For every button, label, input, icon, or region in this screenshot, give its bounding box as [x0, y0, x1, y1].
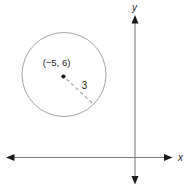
center-point-dot — [61, 74, 65, 78]
center-coordinates-label: (−5, 6) — [43, 57, 71, 68]
x-axis-left-arrowhead — [6, 154, 15, 161]
x-axis-right-arrowhead — [164, 154, 173, 161]
y-axis-top-arrowhead — [132, 15, 139, 24]
y-axis-label: y — [131, 2, 138, 13]
x-axis-label: x — [177, 152, 184, 163]
radius-value-label: 3 — [82, 80, 88, 91]
radius-dashed-line — [67, 79, 94, 104]
coordinate-plane-diagram: (−5, 6) 3 x y — [0, 0, 188, 190]
y-axis-bottom-arrowhead — [132, 176, 139, 185]
diagram-svg: (−5, 6) 3 x y — [0, 0, 188, 190]
